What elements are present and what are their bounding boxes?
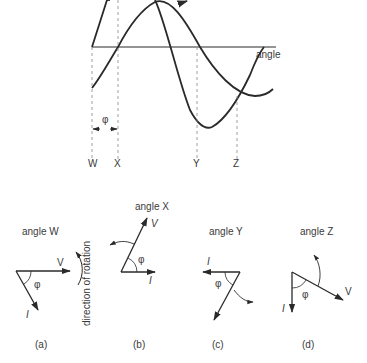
marker-label-w: W: [88, 158, 98, 169]
marker-label-z: Z: [233, 158, 239, 169]
current-vector-a: [16, 271, 38, 310]
i-label-b: I: [149, 275, 152, 286]
waveform: angle φ W X Y Z: [88, 0, 281, 169]
phi-arc-a: [24, 271, 31, 284]
phase-label: φ: [102, 114, 109, 125]
phi-label-a: φ: [34, 279, 41, 290]
phasor-c: angle Y I φ (c): [203, 226, 253, 350]
rotation-arrow-b-icon: [110, 241, 134, 245]
phasor-diagram: angle φ W X Y Z angle W V I φ (a) direct…: [0, 0, 367, 363]
caption-a: (a): [35, 339, 47, 350]
phasor-d-title: angle Z: [300, 226, 333, 237]
phi-arc-c: [225, 272, 233, 285]
phi-arc-b: [128, 258, 137, 272]
phasor-b: angle X V I φ (b): [110, 201, 169, 350]
i-label-a: I: [26, 309, 29, 320]
v-label-b: V: [151, 218, 159, 229]
v-label-a: V: [57, 257, 64, 268]
v-label-d: V: [345, 286, 352, 297]
phasor-c-title: angle Y: [209, 226, 243, 237]
caption-c: (c): [212, 339, 224, 350]
phi-arc-d: [292, 280, 306, 288]
caption-d: (d): [302, 339, 314, 350]
rotation-indicator: direction of rotation: [76, 241, 92, 326]
phi-label-b: φ: [138, 254, 145, 265]
phi-label-d: φ: [302, 289, 309, 300]
phasor-d: angle Z V I φ (d): [282, 226, 352, 350]
phasor-a-title: angle W: [22, 226, 59, 237]
rotation-arrow-c-icon: [234, 290, 253, 302]
wave-arrow-icon: [178, 1, 187, 4]
i-label-c: I: [207, 256, 210, 267]
caption-b: (b): [133, 339, 145, 350]
i-label-d: I: [282, 303, 285, 314]
phasor-a: angle W V I φ (a): [16, 226, 70, 350]
phi-label-c: φ: [215, 278, 222, 289]
marker-label-x: X: [114, 158, 121, 169]
marker-label-y: Y: [193, 158, 200, 169]
phasor-b-title: angle X: [135, 201, 169, 212]
rotation-label: direction of rotation: [81, 241, 92, 326]
rotation-arrow-d-icon: [314, 255, 320, 286]
